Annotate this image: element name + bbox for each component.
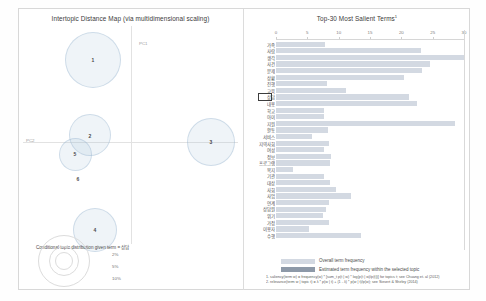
bar-selected [276, 200, 329, 205]
legend-label-overall: Overall term frequency [319, 258, 365, 263]
bar-row[interactable]: 대상 [244, 179, 470, 186]
bar-row[interactable]: 상담원 [244, 206, 470, 213]
bar-overall[interactable] [276, 174, 324, 179]
size-legend-circle-2pct [55, 252, 73, 270]
bar-row[interactable]: 이용자 [244, 226, 470, 233]
size-legend-label-10pct: 10% [112, 276, 121, 281]
bar-row[interactable]: 지원 [244, 120, 470, 127]
bar-selected [276, 68, 422, 73]
bar-overall[interactable] [276, 121, 455, 126]
bar-row[interactable]: 가족 [244, 41, 470, 48]
bar-overall[interactable] [276, 68, 422, 73]
bar-overall[interactable] [276, 114, 324, 119]
bar-overall[interactable] [276, 167, 293, 172]
bar-overall[interactable] [276, 88, 346, 93]
bar-row[interactable]: 진행 [244, 81, 470, 88]
bar-row[interactable]: 교육 [244, 87, 470, 94]
marginal-topic-distribution-legend: Conditional topic distribution given ter… [26, 230, 241, 288]
bar-overall[interactable] [276, 187, 336, 192]
bar-row[interactable]: 기관 [244, 173, 470, 180]
bar-overall[interactable] [276, 180, 330, 185]
legend-swatch-overall [281, 259, 315, 264]
bar-row[interactable]: 사업 [244, 193, 470, 200]
bar-overall[interactable] [276, 42, 325, 47]
bar-overall[interactable] [276, 213, 323, 218]
bar-row[interactable]: 상황 [244, 74, 470, 81]
bar-row[interactable]: 위기 [244, 212, 470, 219]
bar-selected [276, 154, 331, 159]
bar-overall[interactable] [276, 193, 351, 198]
bar-selected [276, 213, 323, 218]
bar-row[interactable]: 상담 [244, 94, 470, 101]
bar-selected [276, 121, 455, 126]
bar-overall[interactable] [276, 160, 330, 165]
bar-overall[interactable] [276, 207, 326, 212]
x-tick-label: 10 [336, 30, 341, 35]
bar-chart-title: Top-30 Most Salient Terms1 [244, 14, 470, 22]
bar-overall[interactable] [276, 108, 324, 113]
x-tick-label: 20 [399, 30, 404, 35]
bar-overall[interactable] [276, 81, 327, 86]
salient-terms-panel: Top-30 Most Salient Terms1 051015202530 … [244, 8, 470, 290]
bar-overall[interactable] [276, 154, 331, 159]
bar-row[interactable]: 사회 [244, 186, 470, 193]
bar-selected [276, 88, 346, 93]
pc1-axis-label: PC1 [139, 41, 148, 46]
topic-circle-label-6: 6 [77, 176, 80, 182]
bar-overall[interactable] [276, 127, 328, 132]
bar-selected [276, 187, 336, 192]
mds-plot-area: PC1 PC2 1 2 5 6 3 4 [23, 26, 238, 244]
bar-selected [276, 55, 464, 60]
legend-swatch-selected [281, 267, 315, 272]
bar-overall[interactable] [276, 48, 421, 53]
bar-selected [276, 180, 330, 185]
bar-row[interactable]: 문제 [244, 67, 470, 74]
bar-row[interactable]: 생각 [244, 54, 470, 61]
bar-overall[interactable] [276, 94, 409, 99]
bar-row[interactable]: 사건 [244, 61, 470, 68]
bar-row[interactable]: 복지 [244, 166, 470, 173]
bar-overall[interactable] [276, 55, 464, 60]
bar-overall[interactable] [276, 101, 417, 106]
bar-row[interactable]: 아이 [244, 114, 470, 121]
bar-overall[interactable] [276, 61, 430, 66]
bar-row[interactable]: 정보 [244, 153, 470, 160]
footnote-relevance: 2. relevance(term w | topic t) = λ * p(w… [266, 280, 471, 285]
bar-row[interactable]: 수행 [244, 232, 470, 239]
bar-overall[interactable] [276, 75, 404, 80]
bar-selected [276, 127, 328, 132]
bar-row[interactable]: 프로그램 [244, 160, 470, 167]
bar-overall[interactable] [276, 226, 309, 231]
bar-selected [276, 114, 324, 119]
bar-overall[interactable] [276, 233, 361, 238]
bar-chart-legend: Overall term frequency Estimated term fr… [281, 258, 467, 275]
bar-term-label[interactable]: 수행 [241, 233, 275, 239]
bar-overall[interactable] [276, 141, 329, 146]
bar-selected [276, 48, 421, 53]
bar-row[interactable]: 가정 [244, 219, 470, 226]
bar-selected [276, 174, 324, 179]
bar-overall[interactable] [276, 134, 312, 139]
topic-circle-label-3: 3 [210, 139, 213, 145]
bar-row[interactable]: 여성 [244, 147, 470, 154]
topic-circle-label-1: 1 [92, 57, 95, 63]
x-tick-label: 25 [430, 30, 435, 35]
bar-selected [276, 220, 329, 225]
bar-overall[interactable] [276, 200, 329, 205]
mds-panel-title: Intertopic Distance Map (via multidimens… [18, 15, 243, 22]
bar-chart-title-text: Top-30 Most Salient Terms [317, 15, 395, 22]
legend-label-selected: Estimated term frequency within the sele… [319, 267, 419, 272]
bar-row[interactable]: 지역사회 [244, 140, 470, 147]
legend-item-overall: Overall term frequency [281, 258, 467, 265]
bar-row[interactable]: 연계 [244, 199, 470, 206]
bar-row[interactable]: 학교 [244, 107, 470, 114]
bar-selected [276, 94, 409, 99]
bar-selected [276, 193, 351, 198]
bar-row[interactable]: 서비스 [244, 133, 470, 140]
bar-overall[interactable] [276, 147, 324, 152]
bar-selected [276, 108, 324, 113]
bar-row[interactable]: 내용 [244, 100, 470, 107]
bar-row[interactable]: 활동 [244, 127, 470, 134]
bar-row[interactable]: 사람 [244, 48, 470, 55]
bar-overall[interactable] [276, 220, 329, 225]
